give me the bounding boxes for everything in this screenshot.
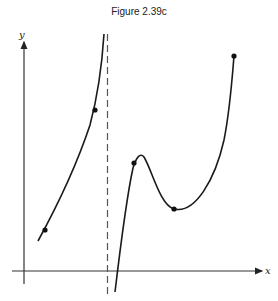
point-local-minimum [171, 206, 176, 211]
point-left-lower [42, 227, 47, 232]
y-axis-label: y [18, 29, 25, 40]
x-axis-label: x [265, 265, 271, 276]
right-branch-curve [115, 56, 234, 292]
left-branch-curve [38, 34, 104, 241]
point-right-end [231, 53, 236, 58]
point-right-rising [131, 160, 136, 165]
function-graph: x y [0, 0, 278, 301]
point-left-upper [92, 107, 97, 112]
